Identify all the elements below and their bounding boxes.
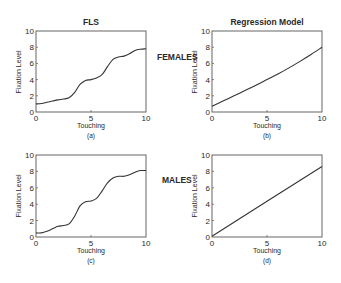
data-line bbox=[36, 49, 146, 104]
x-axis-label: Touching bbox=[253, 122, 281, 130]
data-line bbox=[212, 166, 322, 236]
y-tick-label: 10 bbox=[25, 27, 34, 36]
figure: FLS 0246810 0510 Touching Fixation Level… bbox=[0, 0, 341, 283]
y-tick-label: 2 bbox=[206, 92, 211, 101]
x-tick-label: 0 bbox=[210, 239, 215, 248]
panel-a: FLS 0246810 0510 Touching Fixation Level… bbox=[15, 17, 151, 140]
x-tick-label: 0 bbox=[210, 114, 215, 123]
y-axis-label: Fixation Level bbox=[15, 50, 22, 94]
y-tick-label: 4 bbox=[30, 76, 35, 85]
x-tick-label: 10 bbox=[318, 239, 327, 248]
y-tick-label: 8 bbox=[206, 167, 211, 176]
panel-b: Regression Model 0246810 0510 Touching F… bbox=[191, 17, 327, 140]
panel-title: FLS bbox=[83, 17, 99, 27]
plot-frame bbox=[212, 155, 322, 237]
group-label-males: MALES bbox=[162, 175, 192, 185]
y-tick-label: 2 bbox=[30, 217, 35, 226]
panel-d: 0246810 0510 Touching Fixation Level (d) bbox=[191, 151, 327, 265]
plot-frame bbox=[36, 155, 146, 237]
panel-title: Regression Model bbox=[230, 17, 303, 27]
y-tick-label: 8 bbox=[30, 43, 35, 52]
x-tick-label: 0 bbox=[34, 114, 39, 123]
y-tick-label: 6 bbox=[30, 184, 35, 193]
y-tick-label: 6 bbox=[206, 59, 211, 68]
y-tick-label: 2 bbox=[30, 92, 35, 101]
y-tick-label: 8 bbox=[30, 167, 35, 176]
y-tick-label: 10 bbox=[201, 151, 210, 160]
y-tick-label: 4 bbox=[30, 200, 35, 209]
y-tick-label: 6 bbox=[206, 184, 211, 193]
x-tick-label: 10 bbox=[142, 114, 151, 123]
y-tick-label: 4 bbox=[206, 200, 211, 209]
y-axis-label: Fixation Level bbox=[191, 174, 198, 218]
x-axis-label: Touching bbox=[77, 122, 105, 130]
y-tick-label: 8 bbox=[206, 43, 211, 52]
x-tick-label: 10 bbox=[142, 239, 151, 248]
y-tick-label: 4 bbox=[206, 76, 211, 85]
x-axis-label: Touching bbox=[77, 247, 105, 255]
x-tick-label: 0 bbox=[34, 239, 39, 248]
y-axis-label: Fixation Level bbox=[15, 174, 22, 218]
data-line bbox=[212, 47, 322, 106]
x-axis-label: Touching bbox=[253, 247, 281, 255]
panel-caption: (d) bbox=[263, 257, 271, 265]
data-line bbox=[36, 170, 146, 233]
panel-caption: (c) bbox=[87, 257, 95, 265]
y-tick-label: 2 bbox=[206, 217, 211, 226]
y-tick-label: 6 bbox=[30, 59, 35, 68]
group-label-females: FEMALES bbox=[157, 52, 198, 62]
plot-frame bbox=[212, 31, 322, 112]
y-tick-label: 10 bbox=[201, 27, 210, 36]
plot-frame bbox=[36, 31, 146, 112]
y-tick-label: 10 bbox=[25, 151, 34, 160]
panel-caption: (a) bbox=[87, 132, 95, 140]
panel-c: 0246810 0510 Touching Fixation Level (c) bbox=[15, 151, 151, 265]
x-tick-label: 10 bbox=[318, 114, 327, 123]
panel-caption: (b) bbox=[263, 132, 271, 140]
